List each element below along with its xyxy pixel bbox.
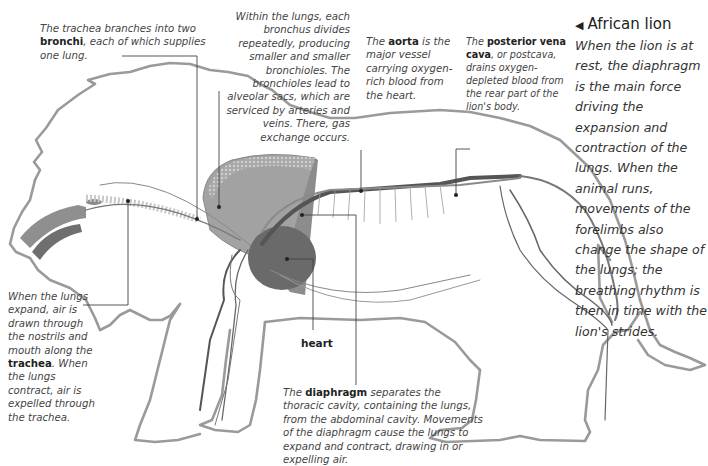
diagram-title: ◀African lion — [575, 14, 708, 36]
bronchi-term: bronchi — [40, 36, 83, 47]
lungs-annotation: Within the lungs, each bronchus divides … — [210, 10, 350, 144]
aorta-annotation: The aorta is the major vessel carrying o… — [366, 35, 456, 102]
heart-label: heart — [301, 337, 333, 349]
trachea-annotation: When the lungs expand, air is drawn thro… — [8, 290, 103, 424]
trachea — [86, 198, 200, 220]
left-triangle-icon: ◀ — [575, 19, 583, 32]
aorta-term: aorta — [388, 36, 419, 47]
trachea-term: trachea — [8, 358, 52, 369]
bronchi-annotation: The trachea branches into two bronchi, e… — [40, 22, 210, 62]
diaphragm-term: diaphragm — [305, 387, 367, 398]
vena-cava-annotation: The posterior vena cava, or postcava, dr… — [466, 35, 566, 113]
caption-block: ◀African lion When the lion is at rest, … — [575, 14, 708, 342]
nasal-passage — [20, 199, 102, 260]
diaphragm-annotation: The diaphragm separates the thoracic cav… — [283, 386, 483, 466]
heart — [248, 226, 316, 290]
caption-text: When the lion is at rest, the diaphragm … — [575, 36, 708, 342]
